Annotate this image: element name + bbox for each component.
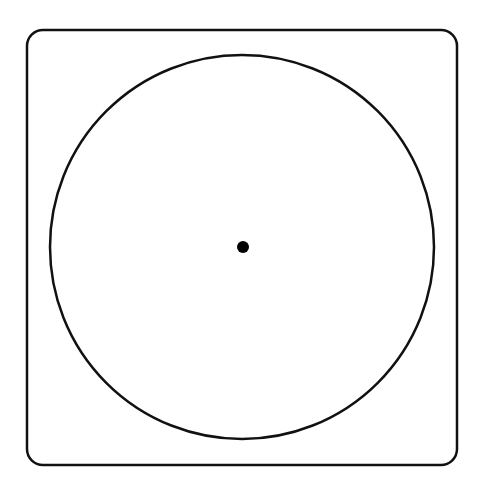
center-dot [237,241,249,253]
diagram-canvas [0,0,482,484]
